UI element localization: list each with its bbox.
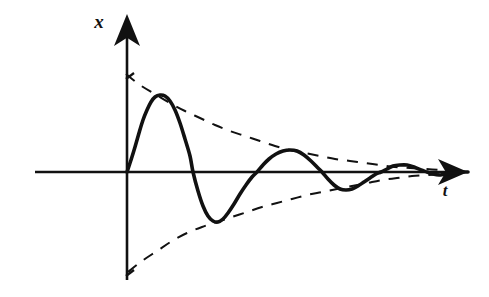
damped-oscillation-figure: x t [0,0,489,297]
damped-oscillation-curve [127,95,468,222]
vertical-axis-label: x [93,11,104,32]
figure-canvas: x t [0,0,489,297]
upper-envelope-curve [126,74,468,172]
horizontal-axis-label: t [443,181,449,200]
axes-group [35,14,468,280]
lower-envelope-curve [128,172,468,272]
